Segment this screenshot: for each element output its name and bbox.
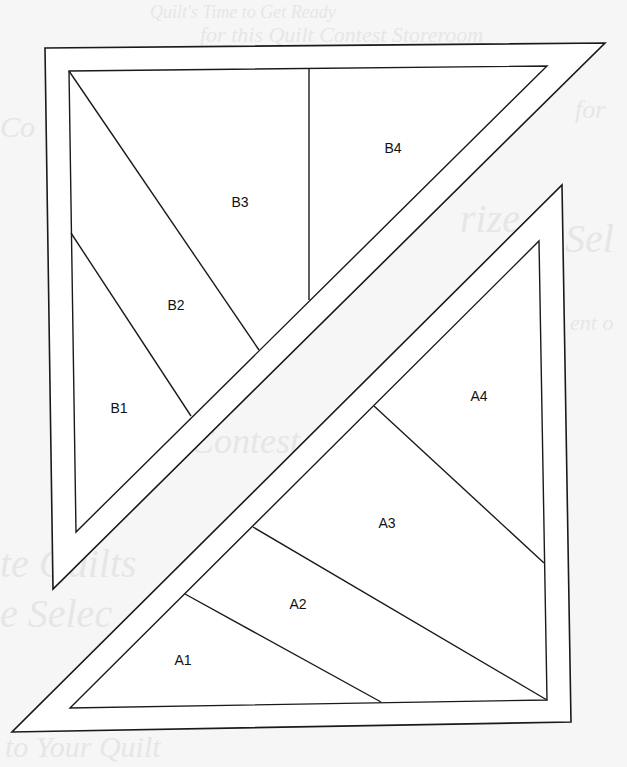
piece-label-b4: B4 (384, 140, 401, 156)
piece-label-b2: B2 (167, 297, 184, 313)
piece-label-a3: A3 (378, 515, 395, 531)
piece-label-b1: B1 (110, 400, 127, 416)
piece-label-a1: A1 (174, 652, 191, 668)
paper-piecing-diagram: B1B2B3B4 A1A2A3A4 (0, 0, 627, 767)
piece-label-a4: A4 (470, 388, 487, 404)
piece-label-a2: A2 (289, 596, 306, 612)
piece-label-b3: B3 (231, 194, 248, 210)
